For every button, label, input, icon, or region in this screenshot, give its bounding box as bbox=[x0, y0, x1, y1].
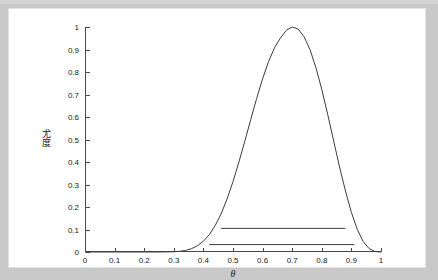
likelihood-curve bbox=[85, 27, 381, 252]
y-axis-title-char-2: 度 bbox=[41, 139, 52, 148]
x-axis-title: θ bbox=[231, 268, 236, 279]
y-tick-label: 0.4 bbox=[68, 158, 79, 167]
y-tick-label: 0.5 bbox=[68, 135, 79, 144]
x-tick-label: 0.4 bbox=[198, 256, 209, 265]
x-tick-label: 0.1 bbox=[109, 256, 120, 265]
y-tick-label: 0 bbox=[75, 248, 79, 257]
y-tick-label: 0.7 bbox=[68, 90, 79, 99]
y-tick-label: 1 bbox=[75, 23, 79, 32]
y-tick-label: 0.1 bbox=[68, 225, 79, 234]
x-tick-label: 0 bbox=[83, 256, 87, 265]
y-tick-label: 0.2 bbox=[68, 203, 79, 212]
x-tick-label: 0.5 bbox=[227, 256, 238, 265]
y-tick-label: 0.6 bbox=[68, 113, 79, 122]
figure-card: 00.10.20.30.40.50.60.70.80.91 00.10.20.3… bbox=[9, 9, 425, 267]
x-tick bbox=[381, 248, 382, 252]
y-tick-label: 0.9 bbox=[68, 45, 79, 54]
y-tick-label: 0.8 bbox=[68, 68, 79, 77]
y-axis-title: 尤 度 bbox=[41, 130, 52, 148]
plot-axes: 00.10.20.30.40.50.60.70.80.91 00.10.20.3… bbox=[85, 27, 381, 252]
x-tick-label: 0.3 bbox=[168, 256, 179, 265]
x-tick-label: 1 bbox=[379, 256, 383, 265]
y-tick-label: 0.3 bbox=[68, 180, 79, 189]
plot-card: 00.10.20.30.40.50.60.70.80.91 00.10.20.3… bbox=[9, 9, 425, 267]
x-tick-label: 0.7 bbox=[287, 256, 298, 265]
plot-svg bbox=[85, 27, 381, 252]
x-tick-label: 0.8 bbox=[316, 256, 327, 265]
x-tick-label: 0.2 bbox=[139, 256, 150, 265]
x-tick-label: 0.6 bbox=[257, 256, 268, 265]
x-tick-label: 0.9 bbox=[346, 256, 357, 265]
figure-frame: 00.10.20.30.40.50.60.70.80.91 00.10.20.3… bbox=[0, 0, 438, 280]
top-strip bbox=[0, 0, 438, 4]
